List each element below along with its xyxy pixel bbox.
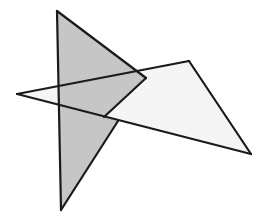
intersecting-triangles-diagram [0,0,267,224]
